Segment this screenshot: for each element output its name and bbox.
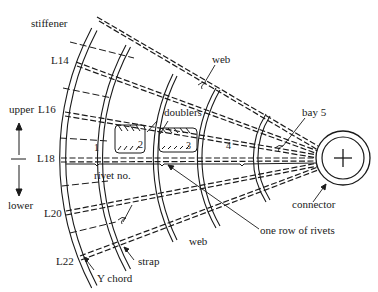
bay-number-2: 2 — [138, 140, 143, 150]
bay-number-3: 3 — [186, 141, 191, 151]
connector-label: connector — [292, 199, 335, 210]
l16-label: L16 — [38, 104, 56, 115]
l18-label: L18 — [37, 153, 55, 164]
arrow-down-icon — [16, 189, 22, 196]
rivet-no-label: rivet no. — [94, 170, 131, 181]
l20-label: L20 — [44, 208, 62, 219]
lower-label: lower — [8, 200, 33, 211]
stiffener-lines — [60, 42, 134, 233]
doublers-label: doublers — [164, 107, 202, 118]
rivet-row-line — [66, 163, 318, 166]
web-top-label: web — [212, 54, 230, 65]
web-bottom-label: web — [189, 236, 207, 247]
arrow-up-icon — [16, 123, 22, 130]
stiffener-label: stiffener — [31, 18, 67, 29]
bay5-label: bay 5 — [302, 107, 326, 118]
strap-label: strap — [138, 256, 159, 267]
one-row-of-rivets-label: one row of rivets — [260, 225, 335, 236]
y-chord-label: Y chord — [97, 273, 132, 284]
upper-label: upper — [9, 104, 34, 115]
bay-number-4: 4 — [226, 141, 231, 151]
bay-number-1: 1 — [94, 143, 99, 153]
l14-label: L14 — [51, 55, 69, 66]
connector — [316, 131, 370, 185]
direction-arrows — [11, 123, 26, 196]
l22-label: L22 — [56, 256, 74, 267]
